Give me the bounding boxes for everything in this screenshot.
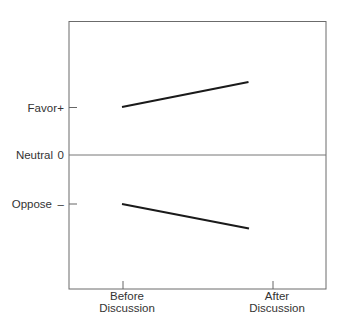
y-label-neutral: Neutral <box>16 149 53 161</box>
y-symbol-favor: + <box>57 102 64 114</box>
y-label-favor: Favor <box>28 102 58 114</box>
series-favor-line <box>122 82 249 107</box>
x-label-after-line1: After <box>265 290 289 302</box>
group-polarization-chart: Favor + Neutral 0 Oppose – Before Discus… <box>0 0 341 327</box>
y-symbol-neutral: 0 <box>58 149 64 161</box>
x-label-before-line2: Discussion <box>99 302 155 314</box>
series-oppose-line <box>122 204 249 229</box>
x-label-after-line2: Discussion <box>249 302 305 314</box>
y-symbol-oppose: – <box>58 198 65 210</box>
x-label-before-line1: Before <box>110 290 144 302</box>
y-label-oppose: Oppose <box>12 198 52 210</box>
